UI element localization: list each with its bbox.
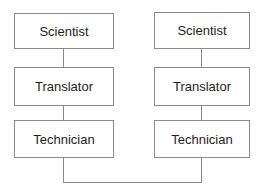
connector-bottom-bridge [63, 182, 202, 183]
connector-right-technician-down [201, 157, 202, 183]
connector-left-translator-technician [63, 105, 64, 120]
node-label: Scientist [39, 24, 88, 39]
node-left-technician: Technician [14, 120, 114, 158]
node-label: Technician [33, 132, 94, 147]
node-label: Scientist [177, 23, 226, 38]
connector-left-technician-down [63, 157, 64, 183]
node-right-translator: Translator [154, 67, 250, 106]
node-right-scientist: Scientist [154, 12, 250, 49]
node-label: Translator [35, 79, 93, 94]
node-left-translator: Translator [14, 67, 114, 106]
node-left-scientist: Scientist [14, 13, 114, 49]
node-label: Translator [173, 79, 231, 94]
connector-right-translator-technician [201, 105, 202, 120]
node-label: Technician [171, 132, 232, 147]
connector-left-scientist-translator [63, 48, 64, 67]
node-right-technician: Technician [154, 120, 250, 158]
connector-right-scientist-translator [201, 48, 202, 67]
